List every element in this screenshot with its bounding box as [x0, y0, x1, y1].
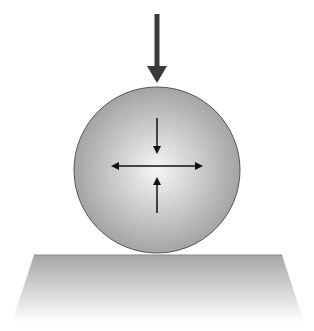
diagram-svg [0, 0, 314, 331]
diagram-canvas [0, 0, 314, 331]
applied-load-arrow-icon [147, 14, 167, 83]
sphere [74, 87, 240, 253]
ground-surface [12, 255, 304, 322]
